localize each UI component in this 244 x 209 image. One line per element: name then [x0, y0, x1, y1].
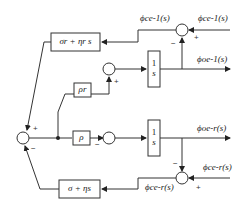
bottom-integrator-num: 1: [148, 127, 160, 137]
top-integrator-den: s: [148, 68, 160, 78]
left-sum-minus-sign: −: [31, 144, 36, 153]
bottom-reference-label: ϕce-r(s): [203, 162, 232, 172]
block-diagram: σr + ηr s ρr ρ σ + ηs 1 s 1 s ϕce-1(s) ϕ…: [0, 0, 244, 209]
top-sum-plus-sign: +: [194, 33, 199, 42]
diagram-wires: [0, 0, 244, 209]
mid-summing-junction: [103, 63, 115, 75]
rho-summing-junction: [103, 132, 115, 144]
bottom-output-label: ϕoe-r(s): [197, 123, 226, 133]
top-summing-junction: [176, 24, 188, 36]
rho-label: ρ: [73, 132, 90, 142]
bottom-controller-label: σ + ηs: [59, 183, 100, 193]
bottom-error-label: ϕce-r(s): [145, 182, 174, 192]
branch-node: [56, 136, 60, 140]
bottom-integrator-fraction: 1 s: [148, 127, 160, 147]
mid-sum-plus-sign: +: [114, 77, 119, 86]
top-integrator-num: 1: [148, 58, 160, 68]
bottom-summing-junction: [176, 172, 188, 184]
left-summing-junction: [17, 132, 29, 144]
rho-r-label: ρr: [74, 84, 91, 94]
top-controller-label: σr + ηr s: [51, 36, 100, 46]
bottom-sum-minus-sign: −: [173, 159, 178, 168]
top-integrator-fraction: 1 s: [148, 58, 160, 78]
top-reference-label: ϕce-1(s): [198, 13, 228, 23]
left-sum-plus-sign: +: [33, 124, 38, 133]
top-sum-minus-sign: −: [171, 39, 176, 48]
top-output-label: ϕoe-1(s): [197, 54, 227, 64]
bottom-integrator-den: s: [148, 137, 160, 147]
top-error-label: ϕce-1(s): [140, 13, 170, 23]
bottom-sum-plus-sign: +: [196, 183, 201, 192]
rho-sum-minus-sign: −: [95, 140, 100, 149]
